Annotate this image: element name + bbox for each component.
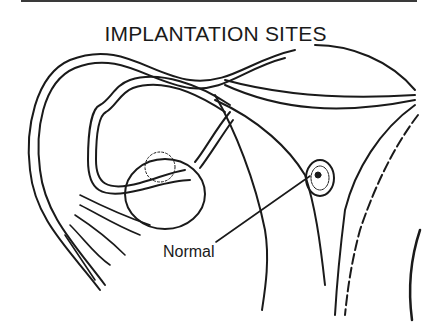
label-leader-line	[216, 176, 310, 242]
implantation-site	[306, 160, 334, 196]
fallopian-tube	[29, 50, 295, 290]
anatomical-illustration	[0, 0, 431, 332]
label-normal: Normal	[163, 243, 215, 261]
uterus	[215, 45, 420, 320]
fimbriae	[65, 195, 150, 280]
